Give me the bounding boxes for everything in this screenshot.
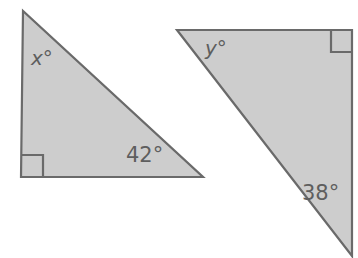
geometry-figure: x° 42° y° 38°: [0, 0, 358, 258]
triangles-canvas: [0, 0, 358, 258]
triangle-right: [177, 30, 352, 256]
triangle-left: [21, 11, 203, 177]
angle-label-y: y°: [205, 38, 227, 58]
angle-label-38: 38°: [302, 183, 339, 204]
angle-label-42: 42°: [126, 145, 163, 166]
angle-label-x: x°: [31, 48, 53, 68]
